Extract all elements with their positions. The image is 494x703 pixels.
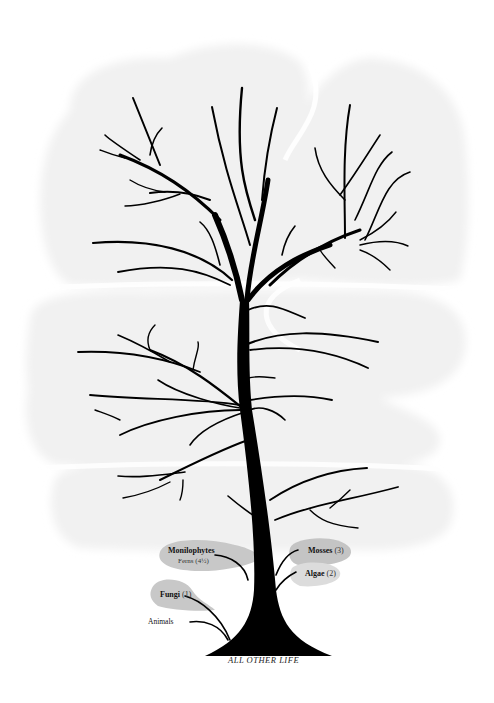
leaf-label-monilophytes: Monilophytes — [168, 547, 215, 555]
leaf-label-algae: Algae (2) — [305, 570, 336, 578]
tree-diagram: Monilophytes Ferns (4½) Mosses (3) Algae… — [0, 0, 494, 703]
leaf-label-fungi: Fungi (1) — [160, 591, 191, 599]
leaf-label-mosses: Mosses (3) — [308, 547, 344, 555]
tree-illustration — [0, 0, 494, 703]
root-label: ALL OTHER LIFE — [228, 655, 299, 665]
leaf-sublabel-ferns: Ferns (4½) — [178, 557, 209, 565]
leaf-label-animals: Animals — [148, 618, 173, 626]
